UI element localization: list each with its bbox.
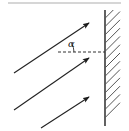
wall-hatch-line: [105, 45, 120, 60]
ray-group: [14, 23, 89, 128]
ray-diagram-canvas: [0, 0, 129, 131]
wall-hatch-line: [105, 94, 120, 109]
ray-diagram-figure: α: [0, 0, 129, 131]
wall-hatch-line: [105, 70, 120, 85]
wall-hatch-line: [105, 28, 120, 43]
angle-alpha-label: α: [68, 39, 75, 49]
wall-hatch-line: [105, 10, 113, 18]
wall-hatch-line: [105, 78, 120, 93]
ray-3: [41, 97, 89, 128]
wall-hatch-line: [105, 36, 120, 51]
hatched-wall: [105, 10, 120, 126]
wall-hatch-line: [105, 103, 120, 118]
wall-hatch-lines: [105, 10, 120, 118]
wall-hatch-line: [105, 12, 120, 27]
wall-hatch-line: [105, 53, 120, 68]
wall-hatch-line: [105, 61, 120, 76]
wall-hatch-line: [105, 86, 120, 101]
wall-hatch-line: [105, 20, 120, 35]
